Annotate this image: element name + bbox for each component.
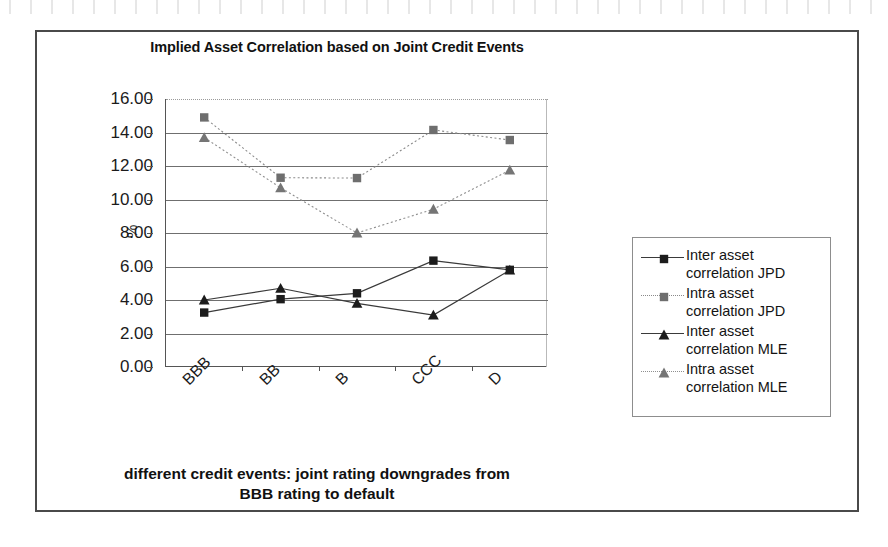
y-axis-tick-mark <box>147 166 153 167</box>
triangle-marker-icon <box>657 328 671 342</box>
data-point-marker <box>429 126 437 134</box>
data-point-marker <box>199 132 210 142</box>
y-axis-tick-label: 10.00 <box>91 190 153 210</box>
chart-title: Implied Asset Correlation based on Joint… <box>77 39 597 55</box>
data-point-marker <box>660 255 668 263</box>
data-point-marker <box>504 165 515 175</box>
y-axis-tick-mark <box>147 200 153 201</box>
x-axis-tick-label: B <box>332 368 352 388</box>
data-point-marker <box>200 308 208 316</box>
data-point-marker <box>659 330 670 340</box>
legend-label-line2: correlation MLE <box>686 341 788 359</box>
legend-key <box>639 324 686 344</box>
data-point-marker <box>276 174 284 182</box>
y-axis-tick-mark <box>147 334 153 335</box>
x-axis-title-line1: different credit events: joint rating do… <box>92 464 542 484</box>
y-axis-tick-label: 16.00 <box>91 89 153 109</box>
y-axis-tick-label: 12.00 <box>91 156 153 176</box>
x-axis-tick-label: D <box>485 368 506 389</box>
legend-item: Intra assetcorrelation JPD <box>639 285 824 320</box>
y-axis-tick-mark <box>147 233 153 234</box>
legend-label-line2: correlation JPD <box>686 303 785 321</box>
legend-label-line2: correlation MLE <box>686 379 788 397</box>
plot-area <box>165 99 547 367</box>
legend-label-line1: Intra asset <box>686 361 788 379</box>
y-axis-tick-label: 0.00 <box>91 357 153 377</box>
legend-label-line1: Inter asset <box>686 323 788 341</box>
square-marker-icon <box>657 290 671 304</box>
x-axis-title-line2: BBB rating to default <box>92 484 542 504</box>
scan-artifact-strip <box>0 0 888 14</box>
y-axis-tick-label: 6.00 <box>91 257 153 277</box>
data-point-marker <box>353 289 361 297</box>
chart-legend: Inter assetcorrelation JPDIntra assetcor… <box>632 237 831 417</box>
data-point-marker <box>275 182 286 192</box>
data-point-marker <box>352 228 363 238</box>
data-point-marker <box>275 283 286 293</box>
data-point-marker <box>353 174 361 182</box>
legend-item: Inter assetcorrelation MLE <box>639 323 824 358</box>
y-axis-tick-mark <box>147 99 153 100</box>
y-axis-tick-mark <box>147 267 153 268</box>
data-point-marker <box>429 256 437 264</box>
y-axis-tick-label: 14.00 <box>91 123 153 143</box>
data-point-marker <box>200 113 208 121</box>
data-point-marker <box>506 136 514 144</box>
data-point-marker <box>428 204 439 214</box>
legend-key <box>639 248 686 268</box>
series-line <box>204 138 510 233</box>
y-axis-tick-mark <box>147 300 153 301</box>
series-line <box>204 117 510 178</box>
y-axis-tick-label: 8.00 <box>91 223 153 243</box>
data-point-marker <box>276 295 284 303</box>
legend-key <box>639 286 686 306</box>
x-axis-title: different credit events: joint rating do… <box>92 464 542 504</box>
legend-label: Intra assetcorrelation JPD <box>686 285 785 320</box>
y-axis-tick-label: 4.00 <box>91 290 153 310</box>
y-axis-tick-mark <box>147 133 153 134</box>
y-axis-tick-labels: 0.002.004.006.008.0010.0012.0014.0016.00 <box>85 99 153 367</box>
legend-label-line1: Inter asset <box>686 247 785 265</box>
series-group <box>199 132 515 237</box>
legend-label-line2: correlation JPD <box>686 265 785 283</box>
legend-key <box>639 362 686 382</box>
y-axis-tick-mark <box>147 367 153 368</box>
legend-label: Intra assetcorrelation MLE <box>686 361 788 396</box>
series-group <box>200 113 514 182</box>
legend-item: Inter assetcorrelation JPD <box>639 247 824 282</box>
legend-item: Intra assetcorrelation MLE <box>639 361 824 396</box>
triangle-marker-icon <box>657 366 671 380</box>
data-point-marker <box>660 293 668 301</box>
square-marker-icon <box>657 252 671 266</box>
series-plot <box>166 99 548 367</box>
legend-label-line1: Intra asset <box>686 285 785 303</box>
legend-label: Inter assetcorrelation JPD <box>686 247 785 282</box>
legend-label: Inter assetcorrelation MLE <box>686 323 788 358</box>
y-axis-tick-label: 2.00 <box>91 324 153 344</box>
chart-frame: Implied Asset Correlation based on Joint… <box>35 30 859 512</box>
data-point-marker <box>659 368 670 378</box>
